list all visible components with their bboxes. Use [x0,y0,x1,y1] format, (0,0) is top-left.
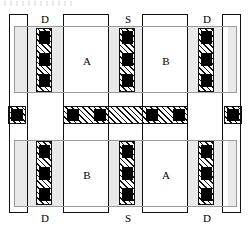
label-top-s: S [125,13,131,25]
contact-via [39,188,50,201]
metal-edge-1rb [27,140,28,207]
active-top-border-bottom [14,92,237,93]
metal-edge-2r [108,26,109,93]
active-top-left-border [14,26,15,93]
contact-via [122,188,133,201]
label-top-d-right: D [203,13,211,25]
metal-edge-3l-mid [142,93,143,140]
contact-via [39,145,50,158]
contact-via [39,31,50,44]
label-bottom-d-right: D [203,212,211,224]
contact-via [122,53,133,66]
contact-via [201,74,212,87]
label-top-d-left: D [41,13,49,25]
label-region-top-a: A [83,55,91,67]
contact-via [201,53,212,66]
contact-via [201,167,212,180]
label-bottom-s: S [125,212,131,224]
metal-edge-2l-mid [63,93,64,140]
metal-edge-3lb [142,140,143,207]
metal-edge-1r-tap [27,106,28,124]
active-fill-bot-e [228,141,236,206]
label-region-top-b: B [162,55,169,67]
label-region-bottom-a: A [162,169,170,181]
metal-edge-2rb [108,140,109,207]
metal-edge-4l [222,26,223,93]
metal-edge-1r [27,26,28,93]
metal-edge-3r [187,26,188,93]
active-bot-right-border [236,140,237,207]
contact-via [201,188,212,201]
center-contact-via [146,109,158,121]
active-fill-top-e [228,27,236,92]
label-region-bottom-b: B [83,169,90,181]
contact-via [39,167,50,180]
metal-edge-3l [142,26,143,93]
active-bot-border-bottom [14,206,237,207]
metal-edge-4l-tap [222,106,223,124]
center-gate-band [63,106,188,124]
metal-edge-2l [63,26,64,93]
contact-via [201,145,212,158]
contact-via [201,31,212,44]
contact-via [122,31,133,44]
metal-edge-2r-mid [108,93,109,140]
metal-edge-3rb [187,140,188,207]
contact-via [39,53,50,66]
scan-artifact [4,1,74,6]
contact-via [122,145,133,158]
metal-edge-1lb [9,140,10,207]
side-tap-left-via [11,109,23,121]
label-bottom-d-left: D [41,212,49,224]
metal-edge-4rb [240,140,241,207]
metal-edge-4lb [222,140,223,207]
metal-edge-4r [240,26,241,93]
center-contact-via [94,109,106,121]
ic-layout-figure: D S D D S D A B B A [0,0,251,230]
metal-edge-1l-tap [9,106,10,124]
active-top-border [14,26,237,27]
contact-via [122,167,133,180]
contact-via [122,74,133,87]
metal-edge-3r-mid [187,93,188,140]
metal-edge-4r-tap [240,106,241,124]
active-bot-left-border [14,140,15,207]
contact-via [39,74,50,87]
metal-edge-1l [9,26,10,93]
active-top-right-border [236,26,237,93]
center-contact-via [173,109,185,121]
center-contact-via [67,109,79,121]
metal-edge-2lb [63,140,64,207]
side-tap-right-via [227,109,239,121]
